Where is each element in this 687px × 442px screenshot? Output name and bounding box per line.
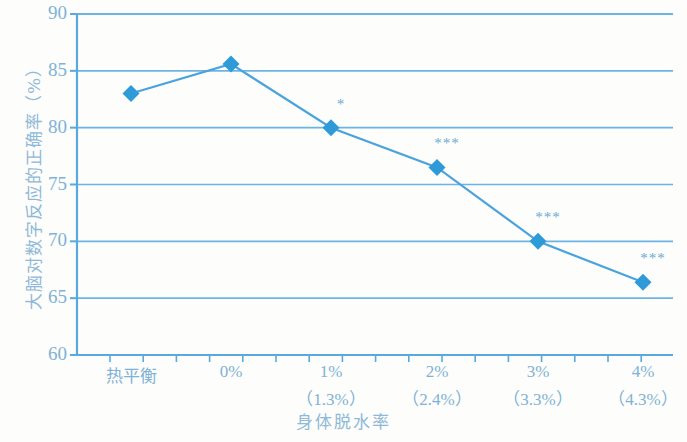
x-tick-sublabel: （1.3%）: [296, 385, 365, 410]
x-tick-label: 1%: [320, 362, 343, 382]
data-point-marker[interactable]: [530, 233, 547, 250]
data-point-marker[interactable]: [323, 119, 340, 136]
plot-area: [0, 0, 687, 442]
significance-marker: ***: [535, 209, 561, 226]
chart-container: 大脑对数字反应的正确率（%） 60657075808590 热平衡0%1%（1.…: [0, 0, 687, 442]
x-tick-sublabel: （2.4%）: [402, 385, 471, 410]
data-point-marker[interactable]: [429, 159, 446, 176]
data-point-marker[interactable]: [123, 85, 140, 102]
x-tick-label: 2%: [426, 362, 449, 382]
x-axis-title: 身体脱水率: [0, 408, 687, 433]
data-line: [131, 64, 643, 282]
x-tick-label: 4%: [632, 362, 655, 382]
data-point-marker[interactable]: [223, 56, 240, 73]
y-tick-label: 85: [21, 59, 67, 81]
significance-marker: *: [337, 96, 346, 113]
x-tick-label: 3%: [527, 362, 550, 382]
x-tick-sublabel: （3.3%）: [503, 385, 572, 410]
data-point-marker[interactable]: [635, 274, 652, 291]
y-tick-label: 75: [21, 173, 67, 195]
y-tick-label: 65: [21, 286, 67, 308]
significance-marker: ***: [434, 135, 460, 152]
y-tick-label: 60: [21, 343, 67, 365]
x-tick-label: 热平衡: [106, 362, 157, 387]
significance-marker: ***: [640, 250, 666, 267]
x-tick-label: 0%: [220, 362, 243, 382]
y-tick-label: 80: [21, 116, 67, 138]
y-tick-label: 90: [21, 2, 67, 24]
y-tick-label: 70: [21, 229, 67, 251]
x-tick-sublabel: （4.3%）: [608, 385, 677, 410]
